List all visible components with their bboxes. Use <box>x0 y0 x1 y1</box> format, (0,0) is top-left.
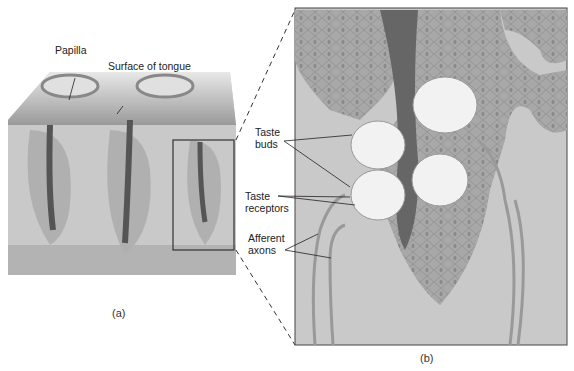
label-taste-receptors-line1: Taste <box>245 190 270 202</box>
label-surface-of-tongue: Surface of tongue <box>108 60 191 72</box>
caption-a: (a) <box>112 307 125 319</box>
label-taste-buds-line1: Taste <box>255 126 280 138</box>
label-afferent-axons-line1: Afferent <box>248 232 285 244</box>
taste-bud <box>412 154 468 206</box>
label-papilla: Papilla <box>55 44 87 56</box>
zoomed-panel <box>295 8 567 345</box>
label-taste-buds-line2: buds <box>255 138 278 150</box>
connector-bottom <box>236 250 295 345</box>
label-afferent-axons-line2: axons <box>248 244 276 256</box>
taste-bud <box>351 121 405 169</box>
taste-bud <box>351 170 405 220</box>
connector-top <box>236 10 295 140</box>
label-taste-receptors-line2: receptors <box>245 202 289 214</box>
taste-bud <box>413 77 477 133</box>
caption-b: (b) <box>420 352 433 364</box>
tongue-block <box>8 72 236 275</box>
